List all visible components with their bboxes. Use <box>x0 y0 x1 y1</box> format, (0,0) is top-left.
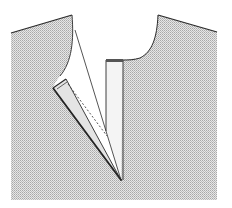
placket-point <box>120 179 122 181</box>
diagram-canvas <box>0 0 232 208</box>
placket-diagram <box>0 0 232 208</box>
